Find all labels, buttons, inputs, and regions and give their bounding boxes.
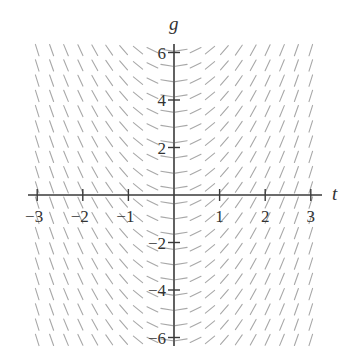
slope-segment xyxy=(250,213,256,224)
slope-segment xyxy=(50,151,54,162)
slope-segment xyxy=(294,212,298,223)
slope-segment xyxy=(133,168,142,176)
slope-segment xyxy=(64,243,69,254)
slope-segment xyxy=(106,320,113,330)
slope-segment xyxy=(235,228,242,238)
slope-segment xyxy=(50,136,54,147)
slope-segment xyxy=(265,334,270,345)
slope-segment xyxy=(133,107,142,115)
slope-segment xyxy=(250,335,256,346)
slope-segment xyxy=(205,46,214,54)
slope-segment xyxy=(175,247,187,249)
slope-segment xyxy=(265,289,270,300)
slope-segment xyxy=(64,289,69,300)
slope-segment xyxy=(175,202,187,204)
slope-segment xyxy=(205,123,214,131)
slope-segment xyxy=(309,334,313,345)
slope-segment xyxy=(309,304,313,315)
slope-segment xyxy=(190,154,201,159)
slope-segment xyxy=(133,184,142,192)
slope-segment xyxy=(161,80,173,82)
slope-segment xyxy=(50,45,54,56)
slope-segment xyxy=(221,46,229,55)
slope-segment xyxy=(78,319,83,330)
slope-segment xyxy=(106,289,113,299)
slope-segment xyxy=(250,167,256,178)
slope-segment xyxy=(78,334,83,345)
slope-segment xyxy=(106,259,113,269)
slope-segment xyxy=(120,122,128,131)
slope-segment xyxy=(294,90,298,101)
slope-segment xyxy=(175,95,187,97)
slope-segment xyxy=(147,63,158,68)
slope-segment xyxy=(35,105,39,116)
slope-segment xyxy=(221,122,229,131)
slope-segment xyxy=(309,75,313,86)
slope-segment xyxy=(92,335,98,346)
slope-segment xyxy=(35,90,39,101)
slope-segment xyxy=(294,228,298,239)
slope-segment xyxy=(106,274,113,284)
slope-segment xyxy=(280,60,285,71)
slope-segment xyxy=(50,106,54,117)
slope-segment xyxy=(250,60,256,71)
slope-segment xyxy=(92,121,98,132)
slope-segment xyxy=(120,61,128,70)
slope-segment xyxy=(250,75,256,86)
slope-segment xyxy=(280,212,285,223)
slope-segment xyxy=(221,320,229,329)
slope-segment xyxy=(175,171,187,173)
slope-segment xyxy=(133,77,142,85)
slope-segment xyxy=(235,259,242,269)
slope-segment xyxy=(120,274,128,283)
slope-segment xyxy=(106,91,113,101)
slope-segment xyxy=(175,232,187,234)
slope-segment xyxy=(250,258,256,269)
slope-segment xyxy=(92,182,98,193)
slope-segment xyxy=(120,290,128,299)
slope-segment xyxy=(265,304,270,315)
slope-segment xyxy=(161,64,173,66)
y-tick-label: 2 xyxy=(158,139,167,158)
slope-segment xyxy=(120,335,128,344)
slope-segment xyxy=(280,334,285,345)
slope-segment xyxy=(161,125,173,127)
slope-segment xyxy=(161,171,173,173)
slope-segment xyxy=(309,288,313,299)
slope-segment xyxy=(106,213,113,223)
slope-segment xyxy=(294,243,298,254)
slope-segment xyxy=(50,334,54,345)
slope-segment xyxy=(92,167,98,178)
slope-segment xyxy=(133,306,142,314)
slope-segment xyxy=(205,62,214,70)
slope-segment xyxy=(133,214,142,222)
slope-segment xyxy=(265,136,270,147)
slope-segment xyxy=(221,76,229,85)
slope-segment xyxy=(280,243,285,254)
slope-segment xyxy=(205,138,214,146)
slope-segment xyxy=(250,91,256,102)
slope-segment xyxy=(294,106,298,117)
slope-segment xyxy=(235,76,242,86)
slope-segment xyxy=(265,228,270,239)
slope-segment xyxy=(221,335,229,344)
slope-segment xyxy=(64,273,69,284)
slope-segment xyxy=(92,304,98,315)
slope-segment xyxy=(205,229,214,237)
slope-segment xyxy=(78,90,83,101)
slope-segment xyxy=(265,151,270,162)
slope-segment xyxy=(64,182,69,193)
slope-segment xyxy=(92,228,98,239)
slope-segment xyxy=(221,168,229,177)
slope-segment xyxy=(78,228,83,239)
slope-segment xyxy=(106,304,113,314)
x-tick-label: 2 xyxy=(261,207,270,226)
slope-segment xyxy=(147,124,158,129)
slope-segment xyxy=(120,107,128,116)
slope-segment xyxy=(64,121,69,132)
slope-segment xyxy=(190,322,201,327)
slope-segment xyxy=(175,324,187,326)
y-tick-label: 4 xyxy=(158,91,167,110)
slope-segment xyxy=(35,288,39,299)
slope-segment xyxy=(120,320,128,329)
